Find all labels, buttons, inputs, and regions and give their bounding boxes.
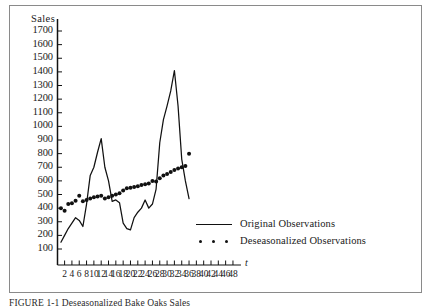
data-point-dot bbox=[59, 206, 63, 210]
data-point-dot bbox=[107, 195, 111, 199]
data-point-dot bbox=[128, 186, 132, 190]
chart-canvas bbox=[0, 0, 431, 307]
legend-label-original: Original Observations bbox=[240, 218, 335, 229]
data-point-dot bbox=[114, 193, 118, 197]
plot-area: Sales t 10020030040050060070080090010001… bbox=[0, 0, 431, 307]
data-point-dot bbox=[96, 195, 100, 199]
data-point-dot bbox=[154, 180, 158, 184]
data-point-dot bbox=[85, 198, 89, 202]
data-point-dot bbox=[70, 201, 74, 205]
data-point-dot bbox=[147, 182, 151, 186]
legend-label-deseasonalized: Deseasonalized Observations bbox=[240, 235, 366, 246]
data-point-dot bbox=[74, 199, 78, 203]
data-point-dot bbox=[150, 179, 154, 183]
data-point-dot bbox=[165, 172, 169, 176]
data-point-dot bbox=[158, 176, 162, 180]
data-point-dot bbox=[110, 194, 114, 198]
series-deseasonalized-observations bbox=[59, 152, 191, 213]
data-point-dot bbox=[121, 188, 125, 192]
figure-root: Sales t 10020030040050060070080090010001… bbox=[0, 0, 431, 307]
figure-caption: FIGURE 1-1 Deseasonalized Bake Oaks Sale… bbox=[9, 298, 429, 307]
data-point-dot bbox=[136, 184, 140, 188]
data-point-dot bbox=[103, 197, 107, 201]
data-point-dot bbox=[172, 168, 176, 172]
data-point-dot bbox=[180, 165, 184, 169]
data-point-dot bbox=[77, 194, 81, 198]
data-point-dot bbox=[176, 167, 180, 171]
data-point-dot bbox=[66, 202, 70, 206]
data-point-dot bbox=[139, 183, 143, 187]
data-point-dot bbox=[118, 191, 122, 195]
series-original-observations bbox=[61, 71, 189, 243]
data-point-dot bbox=[183, 164, 187, 168]
data-point-dot bbox=[92, 195, 96, 199]
data-point-dot bbox=[161, 173, 165, 177]
data-point-dot bbox=[187, 152, 191, 156]
data-point-dot bbox=[63, 209, 67, 213]
legend-marker-dots bbox=[196, 235, 232, 247]
data-point-dot bbox=[88, 197, 92, 201]
data-point-dot bbox=[169, 170, 173, 174]
data-point-dot bbox=[99, 194, 103, 198]
data-point-dot bbox=[143, 182, 147, 186]
legend-marker-line bbox=[196, 224, 232, 225]
data-point-dot bbox=[125, 186, 129, 190]
data-point-dot bbox=[81, 199, 85, 203]
data-point-dot bbox=[132, 185, 136, 189]
